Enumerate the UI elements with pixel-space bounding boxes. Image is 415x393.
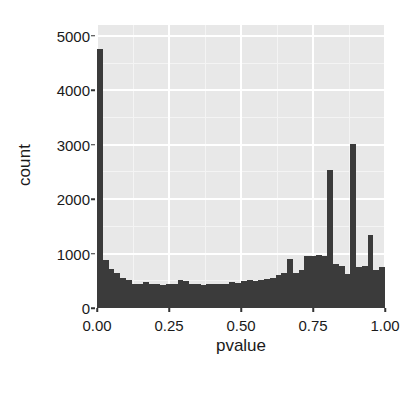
x-tick-label: 1.00 xyxy=(370,317,399,334)
histogram-bar xyxy=(379,267,385,308)
y-tick-mark xyxy=(91,144,95,146)
y-tick-label: 4000 xyxy=(57,82,90,99)
y-tick-mark xyxy=(91,198,95,200)
y-tick-mark xyxy=(91,307,95,309)
y-tick-label: 3000 xyxy=(57,136,90,153)
y-tick-label: 1000 xyxy=(57,245,90,262)
x-tick-mark xyxy=(168,308,170,312)
y-tick-mark xyxy=(91,35,95,37)
x-tick-mark xyxy=(384,308,386,312)
x-tick-mark xyxy=(240,308,242,312)
x-tick-mark xyxy=(96,308,98,312)
y-tick-label: 0 xyxy=(82,300,90,317)
y-tick-mark xyxy=(91,90,95,92)
x-tick-mark xyxy=(312,308,314,312)
y-axis-title-label: count xyxy=(15,144,35,186)
y-tick-mark xyxy=(91,253,95,255)
histogram-figure: count 010002000300040005000 0.000.250.50… xyxy=(0,0,415,393)
x-tick-label: 0.75 xyxy=(298,317,327,334)
y-tick-label: 2000 xyxy=(57,191,90,208)
y-tick-label: 5000 xyxy=(57,27,90,44)
x-axis-title: pvalue xyxy=(97,336,385,356)
x-tick-label: 0.25 xyxy=(154,317,183,334)
x-tick-label: 0.00 xyxy=(82,317,111,334)
y-axis-tick-labels: 010002000300040005000 xyxy=(34,20,90,315)
histogram-bars xyxy=(97,25,385,308)
x-tick-label: 0.50 xyxy=(226,317,255,334)
plot-panel xyxy=(97,25,385,308)
